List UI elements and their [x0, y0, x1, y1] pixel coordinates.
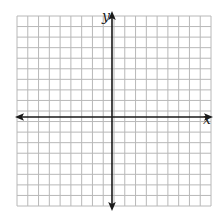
grid — [17, 16, 211, 206]
x-axis-label: x — [203, 111, 211, 127]
y-axis-label: y — [101, 8, 111, 24]
coordinate-plane: x y — [0, 0, 221, 213]
